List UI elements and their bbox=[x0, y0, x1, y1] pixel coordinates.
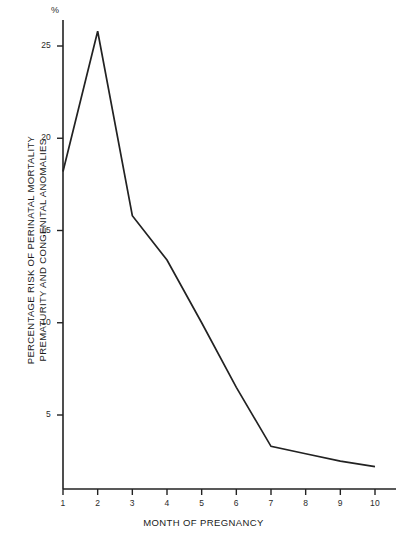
x-tick-label: 5 bbox=[192, 498, 212, 508]
x-tick-label: 6 bbox=[226, 498, 246, 508]
x-tick-label: 10 bbox=[365, 498, 385, 508]
x-axis-ticks bbox=[63, 489, 375, 495]
y-axis-unit-label: % bbox=[51, 5, 59, 15]
x-tick-label: 7 bbox=[261, 498, 281, 508]
x-tick-label: 3 bbox=[122, 498, 142, 508]
x-tick-label: 4 bbox=[157, 498, 177, 508]
y-axis-title-line-1: PERCENTAGE RISK OF PERINATAL MORTALITY bbox=[25, 85, 37, 415]
x-tick-label: 8 bbox=[296, 498, 316, 508]
x-tick-label: 2 bbox=[88, 498, 108, 508]
data-series-line bbox=[63, 31, 375, 466]
x-axis-title: MONTH OF PREGNANCY bbox=[0, 517, 407, 528]
chart-figure: % 510152025 12345678910 MONTH OF PREGNAN… bbox=[0, 0, 407, 546]
x-tick-label: 9 bbox=[330, 498, 350, 508]
chart-canvas bbox=[0, 0, 407, 546]
y-tick-label: 25 bbox=[29, 40, 51, 50]
x-tick-label: 1 bbox=[53, 498, 73, 508]
y-axis-title: PERCENTAGE RISK OF PERINATAL MORTALITY P… bbox=[25, 85, 49, 415]
y-axis-ticks bbox=[57, 46, 63, 415]
y-axis-title-line-2: PREMATURITY AND CONGENITAL ANOMALIES bbox=[37, 85, 49, 415]
axes-group bbox=[63, 20, 396, 489]
